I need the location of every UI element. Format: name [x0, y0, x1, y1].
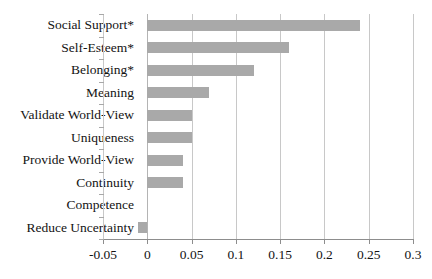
- bar-chart: Social Support*Self-Esteem*Belonging*Mea…: [0, 0, 432, 279]
- bar: [147, 65, 253, 76]
- y-tick-mark: [99, 194, 104, 195]
- y-tick-mark: [99, 239, 104, 240]
- x-tick-mark: [147, 239, 148, 244]
- x-gridline: [413, 14, 414, 239]
- x-tick-label: 0.15: [268, 247, 292, 262]
- y-tick-mark: [99, 14, 104, 15]
- x-gridline: [369, 14, 370, 239]
- x-tick-mark: [413, 239, 414, 244]
- bar: [147, 42, 289, 53]
- x-tick-label: 0.05: [180, 247, 204, 262]
- plot-area: [103, 14, 413, 239]
- y-tick-mark: [99, 149, 104, 150]
- x-tick-label: 0.25: [357, 247, 381, 262]
- bar: [147, 155, 182, 166]
- bar: [147, 177, 182, 188]
- y-tick-mark: [99, 37, 104, 38]
- x-tick-mark: [192, 239, 193, 244]
- x-tick-label: 0: [144, 247, 151, 262]
- bar: [147, 20, 360, 31]
- x-tick-mark: [280, 239, 281, 244]
- x-tick-label: 0.3: [405, 247, 422, 262]
- bar: [138, 222, 147, 233]
- x-gridline: [324, 14, 325, 239]
- x-tick-mark: [324, 239, 325, 244]
- y-tick-mark: [99, 82, 104, 83]
- y-tick-mark: [99, 104, 104, 105]
- x-tick-mark: [369, 239, 370, 244]
- x-tick-label: -0.05: [89, 247, 117, 262]
- y-tick-mark: [99, 217, 104, 218]
- bar: [147, 110, 191, 121]
- x-tick-label: 0.2: [316, 247, 333, 262]
- x-tick-label: 0.1: [227, 247, 244, 262]
- bar: [147, 87, 209, 98]
- y-tick-mark: [99, 59, 104, 60]
- x-axis-line: [103, 239, 413, 240]
- x-tick-mark: [236, 239, 237, 244]
- y-tick-mark: [99, 127, 104, 128]
- y-tick-mark: [99, 172, 104, 173]
- bar: [147, 132, 191, 143]
